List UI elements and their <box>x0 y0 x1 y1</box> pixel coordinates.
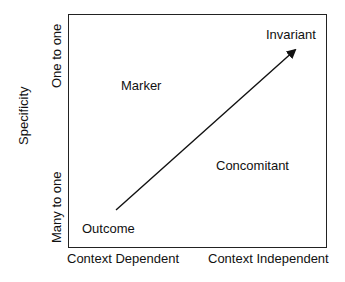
x-axis-right-label: Context Independent <box>208 251 329 266</box>
x-axis-left-label: Context Dependent <box>67 251 179 266</box>
y-axis-top-label: One to one <box>49 24 64 88</box>
y-axis-bottom-label: Many to one <box>49 171 64 243</box>
quadrant-label-marker: Marker <box>121 78 161 93</box>
y-axis-title: Specificity <box>16 86 31 145</box>
quadrant-label-invariant: Invariant <box>266 27 316 42</box>
quadrant-label-concomitant: Concomitant <box>216 158 289 173</box>
quadrant-label-outcome: Outcome <box>82 221 135 236</box>
